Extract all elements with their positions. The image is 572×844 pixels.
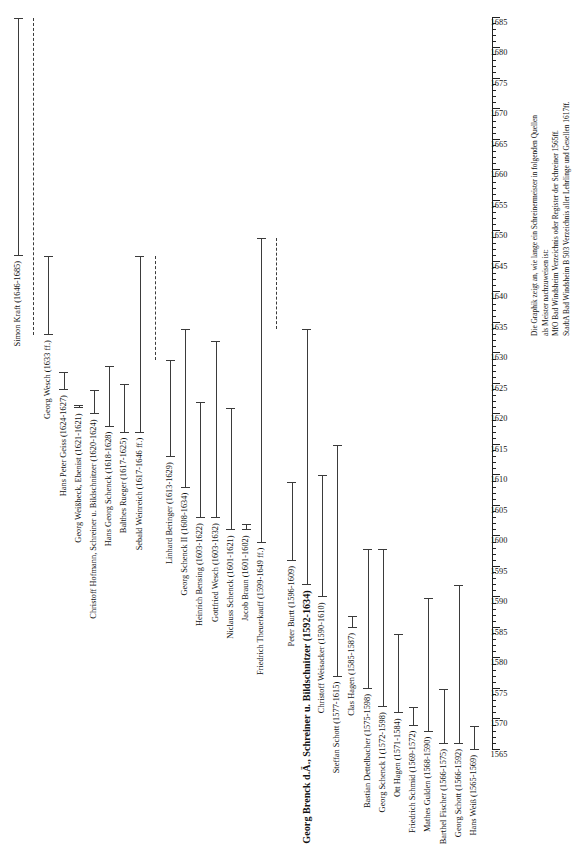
- axis-minor-tick: [492, 590, 496, 591]
- axis-minor-tick: [492, 676, 496, 677]
- axis-minor-tick: [492, 279, 496, 280]
- bar-cap-start: [363, 688, 372, 689]
- bar-label: Clas Hagen (1585-1587): [348, 633, 356, 716]
- axis-tick-label: 1685: [491, 18, 508, 27]
- bar-stem: [18, 18, 19, 256]
- axis-minor-tick: [492, 578, 496, 579]
- bar-stem: [368, 549, 369, 689]
- axis-tick-label: 1660: [491, 171, 508, 180]
- caption-line-1: Die Graphik zeigt an, wie lange ein Schr…: [530, 6, 541, 336]
- axis-minor-tick: [492, 163, 496, 164]
- bar-stem: [474, 726, 475, 750]
- axis-minor-tick: [492, 462, 496, 463]
- axis-minor-tick: [492, 493, 496, 494]
- axis-minor-tick: [492, 346, 496, 347]
- bar-cap-start: [257, 542, 266, 543]
- bar-stem: [109, 366, 110, 427]
- axis-minor-tick: [492, 584, 496, 585]
- axis-minor-tick: [492, 645, 496, 646]
- axis-minor-tick: [492, 35, 496, 36]
- bar-label: Jacob Braun (1601-1602): [242, 535, 250, 621]
- axis-minor-tick: [492, 456, 496, 457]
- bar-cap-end: [59, 372, 68, 373]
- bar-cap-end: [105, 366, 114, 367]
- bar-cap-start: [166, 456, 175, 457]
- bar-cap-end: [287, 482, 296, 483]
- chart-caption: Die Graphik zeigt an, wie lange ein Schr…: [530, 6, 572, 336]
- axis-minor-tick: [492, 682, 496, 683]
- axis-minor-tick: [492, 365, 496, 366]
- bar-cap-start: [302, 584, 311, 585]
- bar-cap-start: [211, 517, 220, 518]
- axis-minor-tick: [492, 102, 496, 103]
- axis-minor-tick: [492, 432, 496, 433]
- axis-tick-label: 1595: [491, 567, 508, 576]
- axis-minor-tick: [492, 255, 496, 256]
- axis-minor-tick: [492, 438, 496, 439]
- bar-cap-start: [394, 712, 403, 713]
- bar-stem: [155, 256, 156, 360]
- bar-label: Ott Hagen (1571-1584): [394, 718, 402, 797]
- axis-tick-label: 1615: [491, 445, 508, 454]
- axis-minor-tick: [492, 371, 496, 372]
- axis-minor-tick: [492, 560, 496, 561]
- axis-minor-tick: [492, 651, 496, 652]
- axis-minor-tick: [492, 468, 496, 469]
- bar-label: Hans Georg Schenck (1618-1628): [105, 432, 113, 547]
- axis-minor-tick: [492, 151, 496, 152]
- bar-cap-start: [470, 749, 479, 750]
- bar-cap-end: [302, 329, 311, 330]
- bar-cap-end: [424, 598, 433, 599]
- bar-stem: [231, 408, 232, 530]
- bar-label: Mathes Gulden (1568-1590): [424, 737, 432, 832]
- bar-cap-end: [196, 402, 205, 403]
- bar-stem: [140, 256, 141, 433]
- axis-tick-label: 1570: [491, 720, 508, 729]
- axis-minor-tick: [492, 548, 496, 549]
- bar-label: Heinrich Bensing (1603-1622): [196, 523, 204, 626]
- caption-line-3: MfO Bad Windsheim Verzeichnis oder Regis…: [551, 6, 562, 336]
- bar-label: Christoff Weisacker (1590-1610): [318, 603, 326, 714]
- bar-stem: [185, 329, 186, 488]
- bar-label: Barthel Fischer (1566-1575): [439, 749, 447, 844]
- axis-minor-tick: [492, 66, 496, 67]
- bar-cap-start: [44, 334, 53, 335]
- bar-cap-start: [14, 255, 23, 256]
- bar-cap-start: [135, 432, 144, 433]
- bar-cap-end: [120, 384, 129, 385]
- axis-minor-tick: [492, 72, 496, 73]
- axis-tick-label: 1565: [491, 750, 508, 759]
- axis-minor-tick: [492, 243, 496, 244]
- axis-minor-tick: [492, 334, 496, 335]
- axis-minor-tick: [492, 712, 496, 713]
- axis-minor-tick: [492, 285, 496, 286]
- bar-cap-start: [318, 597, 327, 598]
- axis-minor-tick: [492, 731, 496, 732]
- bar-cap-start: [120, 432, 129, 433]
- bar-cap-end: [394, 634, 403, 635]
- bar-cap-start: [90, 414, 99, 415]
- bar-cap-start: [378, 706, 387, 707]
- axis-minor-tick: [492, 487, 496, 488]
- axis-minor-tick: [492, 224, 496, 225]
- bar-label: Georg Brenck d.Ä., Schreiner u. Bildschn…: [302, 590, 312, 843]
- bar-cap-end: [242, 524, 251, 525]
- bar-stem: [170, 360, 171, 458]
- axis-tick-label: 1620: [491, 415, 508, 424]
- axis-minor-tick: [492, 700, 496, 701]
- bar-cap-end: [90, 390, 99, 391]
- axis-minor-tick: [492, 499, 496, 500]
- axis-tick-label: 1590: [491, 598, 508, 607]
- bar-stem: [337, 445, 338, 677]
- bar-label: Georg Schott (1566-1592): [455, 749, 463, 837]
- bar-cap-start: [74, 407, 83, 408]
- axis-minor-tick: [492, 609, 496, 610]
- axis-tick-label: 1625: [491, 384, 508, 393]
- bar-cap-end: [211, 341, 220, 342]
- bar-stem: [33, 18, 34, 335]
- bar-label: Sebald Weinreich (1617-1646 ff.): [135, 438, 143, 551]
- bar-label: Hans Weiß (1565-1569): [470, 755, 478, 836]
- bar-label: Simon Kraft (1646-1685): [14, 261, 22, 347]
- bar-label: Bastian Dettelbacher (1575-1598): [363, 694, 371, 808]
